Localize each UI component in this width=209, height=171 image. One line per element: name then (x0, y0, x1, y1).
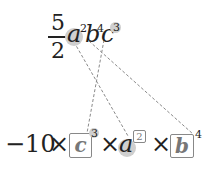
bottom-a-exponent: 2 (136, 131, 142, 142)
box-bottom-b: b (170, 134, 194, 158)
times-2: × (100, 130, 120, 158)
top-c-exponent: 3 (113, 21, 120, 34)
times-1: × (49, 130, 69, 158)
box-bottom-c: c (69, 133, 92, 158)
bottom-b: b (171, 135, 193, 157)
connector-b (89, 41, 193, 134)
times-3: × (151, 130, 171, 158)
bottom-c: c (70, 134, 91, 157)
connector-c (87, 40, 104, 133)
box-bottom-a-exponent: 2 (133, 130, 146, 143)
fraction-numerator: 5 (48, 12, 68, 34)
bottom-a: a (119, 130, 133, 158)
bottom-c-exponent: 3 (91, 127, 98, 140)
fraction-denominator: 2 (48, 40, 68, 62)
bottom-b-exponent: 4 (195, 128, 202, 141)
